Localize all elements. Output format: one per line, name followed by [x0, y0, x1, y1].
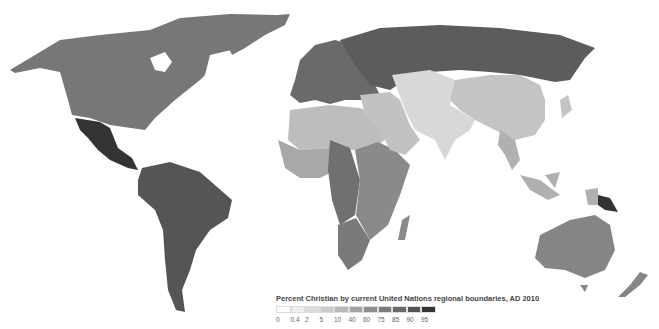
region-melanesia [598, 195, 618, 212]
legend-swatch [291, 306, 306, 313]
region-tasmania [580, 285, 588, 292]
legend-tick: 0.4 [291, 316, 306, 323]
legend-tick: 85 [392, 316, 407, 323]
legend-tick: 2 [305, 316, 320, 323]
legend-swatch [392, 306, 407, 313]
legend-tick: 40 [349, 316, 364, 323]
legend-tick: 75 [378, 316, 393, 323]
legend-swatch [305, 306, 320, 313]
region-middle-africa [328, 140, 360, 225]
legend-ticks: 00.42510406075859095 [276, 316, 539, 323]
legend-tick: 5 [320, 316, 335, 323]
legend-swatch [378, 306, 393, 313]
region-south-america [138, 162, 232, 312]
legend-tick: 10 [334, 316, 349, 323]
region-southeast-asia [498, 130, 598, 205]
legend-tick: 60 [363, 316, 378, 323]
region-japan [560, 95, 572, 118]
legend-swatches [276, 306, 539, 313]
region-australia [535, 215, 615, 278]
legend-tick: 90 [407, 316, 422, 323]
legend-swatch [276, 306, 291, 313]
legend-tick: 0 [276, 316, 291, 323]
legend-swatch [421, 306, 436, 313]
legend-title: Percent Christian by current United Nati… [276, 294, 539, 303]
region-madagascar [398, 215, 410, 240]
legend-swatch [407, 306, 422, 313]
legend-swatch [320, 306, 335, 313]
legend-swatch [363, 306, 378, 313]
world-map [0, 0, 659, 329]
legend-tick: 95 [421, 316, 436, 323]
legend-swatch [334, 306, 349, 313]
legend: Percent Christian by current United Nati… [276, 294, 539, 323]
legend-swatch [349, 306, 364, 313]
region-new-zealand [618, 272, 648, 297]
